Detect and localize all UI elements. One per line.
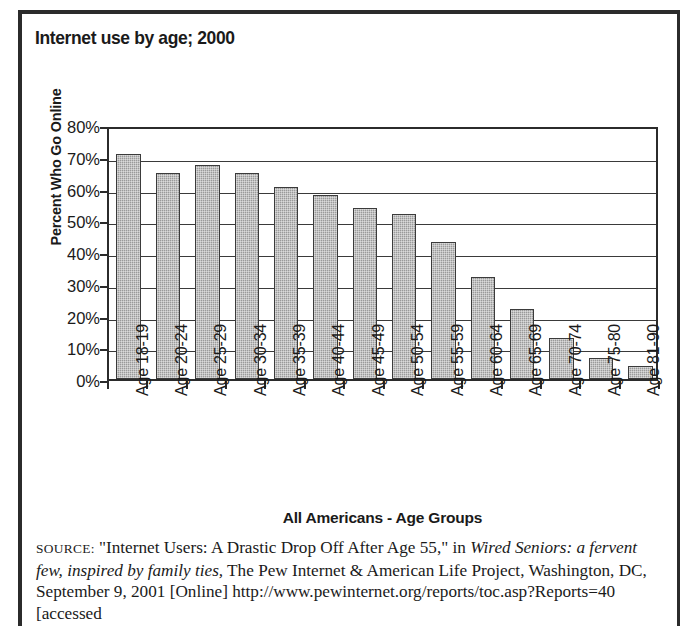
x-axis-title: All Americans - Age Groups [107,509,658,527]
source-text-part1: "Internet Users: A Drastic Drop Off Afte… [95,538,471,557]
y-tick-label: 10% [44,340,100,359]
y-tick-mark [100,349,109,351]
x-tick-label: Age 50-54 [409,324,427,396]
y-tick-mark [100,159,109,161]
y-tick-mark [100,191,109,193]
x-tick-label: Age 20-24 [173,324,191,396]
x-tick-label: Age 60-64 [488,324,506,396]
x-tick-label: Age 45-49 [370,324,388,396]
x-tick-label: Age 18-19 [134,324,152,396]
y-tick-mark [100,318,109,320]
x-tick-label: Age 40-44 [330,324,348,396]
y-tick-label: 80% [44,118,100,137]
y-tick-label: 20% [44,308,100,327]
y-tick-label: 30% [44,276,100,295]
x-tick-mark [107,381,109,389]
y-tick-label: 40% [44,245,100,264]
x-tick-label: Age 35-39 [291,324,309,396]
x-tick-label: Age 25-29 [212,324,230,396]
y-tick-mark [100,127,109,129]
x-tick-label: Age 70-74 [567,324,585,396]
chart-title: Internet use by age; 2000 [35,27,235,49]
x-tick-label: Age 55-59 [449,324,467,396]
y-tick-mark [100,286,109,288]
source-note: SOURCE: "Internet Users: A Drastic Drop … [36,537,666,624]
x-tick-label: Age 81-90 [645,324,663,396]
x-tick-label: Age 30-34 [252,324,270,396]
x-tick-label: Age 75-80 [606,324,624,396]
x-tick-label: Age 65-69 [527,324,545,396]
y-axis-tick-labels: 0%10%20%30%40%50%60%70%80% [40,127,100,381]
y-tick-mark [100,222,109,224]
y-tick-mark [100,254,109,256]
y-tick-label: 70% [44,149,100,168]
y-tick-label: 60% [44,181,100,200]
source-label: SOURCE: [36,541,95,556]
y-tick-label: 0% [44,372,100,391]
y-tick-label: 50% [44,213,100,232]
